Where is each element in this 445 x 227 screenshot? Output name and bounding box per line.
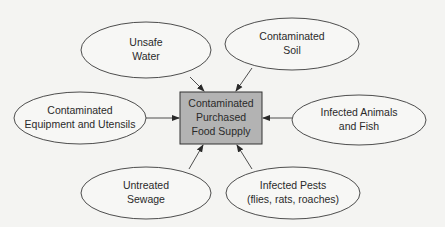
- arrow-untreated-sewage: [189, 145, 203, 169]
- node-label-line-1: Contaminated: [47, 104, 113, 116]
- center-label-line-3: Food Supply: [192, 125, 252, 137]
- center-label-line-2: Purchased: [196, 111, 246, 123]
- node-label-line-2: Equipment and Utensils: [25, 118, 136, 130]
- node-label-line-2: Soil: [283, 44, 301, 56]
- arrow-unsafe-water: [190, 77, 204, 91]
- node-untreated-sewage: Untreated Sewage: [81, 167, 211, 219]
- node-label-line-1: Untreated: [123, 179, 169, 191]
- arrow-infected-pests: [237, 145, 252, 169]
- node-contaminated-soil: Contaminated Soil: [225, 18, 359, 70]
- diagram-canvas: Unsafe Water Contaminated Soil Contamina…: [0, 0, 445, 227]
- node-equipment-utensils: Contaminated Equipment and Utensils: [14, 92, 146, 144]
- node-infected-animals-fish: Infected Animals and Fish: [292, 95, 426, 145]
- node-label-line-2: Sewage: [127, 193, 165, 205]
- node-label-line-1: Infected Animals: [320, 106, 397, 118]
- node-unsafe-water: Unsafe Water: [81, 22, 211, 78]
- center-label-line-1: Contaminated: [188, 97, 254, 109]
- node-infected-pests: Infected Pests (flies, rats, roaches): [226, 167, 360, 219]
- node-center-food-supply: Contaminated Purchased Food Supply: [180, 92, 262, 144]
- node-label-line-1: Infected Pests: [260, 179, 327, 191]
- node-label-line-2: Water: [132, 50, 160, 62]
- node-label-line-1: Unsafe: [129, 36, 162, 48]
- arrow-contaminated-soil: [236, 68, 252, 91]
- node-label-line-2: (flies, rats, roaches): [247, 193, 339, 205]
- node-label-line-2: and Fish: [339, 120, 379, 132]
- node-label-line-1: Contaminated: [259, 30, 325, 42]
